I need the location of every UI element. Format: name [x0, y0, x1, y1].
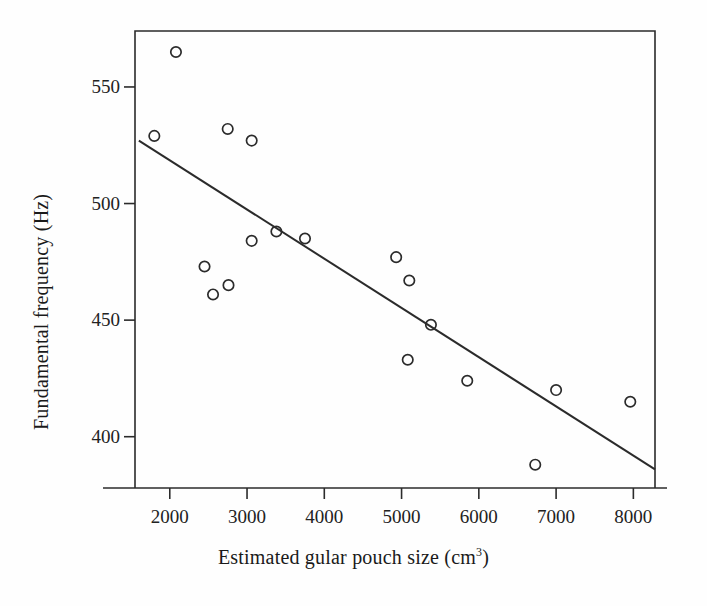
data-point-series — [149, 47, 635, 470]
data-point-marker — [462, 376, 472, 386]
data-point-marker — [404, 275, 414, 285]
data-point-marker — [149, 131, 159, 141]
x-tick-label: 8000 — [614, 506, 652, 528]
data-point-marker — [530, 459, 540, 469]
data-point-marker — [391, 252, 401, 262]
data-point-marker — [223, 280, 233, 290]
y-axis-title: Fundamental frequency (Hz) — [30, 194, 53, 430]
data-point-marker — [403, 355, 413, 365]
data-point-marker — [625, 397, 635, 407]
x-axis-title: Estimated gular pouch size (cm3) — [0, 545, 707, 569]
regression-line — [139, 141, 655, 470]
x-axis-title-text: Estimated gular pouch size (cm — [218, 546, 476, 568]
x-tick-label: 2000 — [151, 506, 189, 528]
data-point-marker — [300, 233, 310, 243]
x-tick-label: 6000 — [460, 506, 498, 528]
data-point-marker — [199, 261, 209, 271]
x-axis-title-suffix: ) — [482, 546, 489, 568]
x-tick-label: 7000 — [537, 506, 575, 528]
x-tick-label: 5000 — [383, 506, 421, 528]
data-point-marker — [171, 47, 181, 57]
data-point-marker — [246, 236, 256, 246]
axis-frame — [103, 31, 667, 488]
regression-line-segment — [139, 141, 655, 470]
x-tick-label: 3000 — [228, 506, 266, 528]
data-point-marker — [246, 135, 256, 145]
data-point-marker — [223, 124, 233, 134]
data-point-marker — [551, 385, 561, 395]
data-point-marker — [208, 289, 218, 299]
figure-container: 400450500550 200030004000500060007000800… — [0, 0, 707, 606]
x-tick-label: 4000 — [305, 506, 343, 528]
y-tick-label: 550 — [15, 76, 120, 98]
